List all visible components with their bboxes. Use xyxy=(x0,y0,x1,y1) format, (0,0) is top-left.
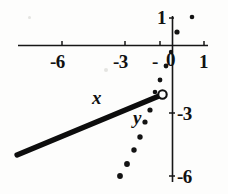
y-axis-label: y xyxy=(133,108,141,127)
curve-dot xyxy=(142,119,147,124)
y-tick-label-pos1: 1 xyxy=(157,8,166,27)
plot-surface xyxy=(0,0,228,194)
curve-dot xyxy=(137,134,142,139)
curve-dot xyxy=(190,15,195,20)
y-tick-label-neg6: -6 xyxy=(177,167,192,186)
curve-dot xyxy=(124,161,130,167)
curve-dot xyxy=(158,78,163,83)
open-circle-endpoint xyxy=(158,90,166,98)
curve-dot xyxy=(117,173,123,179)
x-tick-label-neg1: - xyxy=(152,52,158,71)
x-tick-label-neg6: -6 xyxy=(50,52,65,71)
x-tick-label-pos1: 1 xyxy=(199,52,208,71)
curve-dot xyxy=(147,107,152,112)
curve-dot xyxy=(174,29,179,34)
x-tick-label-neg3: -3 xyxy=(113,52,128,71)
curve-dot xyxy=(153,90,158,95)
y-tick-label-neg3: -3 xyxy=(177,104,192,123)
graph-canvas: -6 -3 - 0 1 1 -3 -6 x y xyxy=(0,0,228,194)
x-axis-label: x xyxy=(92,88,102,107)
origin-label: 0 xyxy=(166,50,175,69)
curve-dot xyxy=(131,147,136,152)
